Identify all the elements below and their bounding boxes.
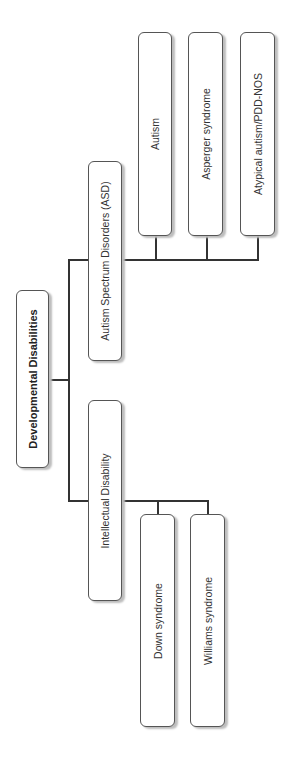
intellectual-disability-label: Intellectual Disability — [99, 453, 111, 548]
asperger-label: Asperger syndrome — [200, 88, 212, 180]
asperger-node: Asperger syndrome — [188, 32, 223, 236]
asd-connector — [68, 259, 89, 261]
asd-children-bus — [121, 259, 259, 261]
williams-connector — [207, 500, 209, 515]
atypical-autism-label: Atypical autism/PDD-NOS — [252, 73, 264, 195]
atypical-autism-node: Atypical autism/PDD-NOS — [240, 32, 275, 236]
autism-node: Autism — [138, 32, 172, 236]
root-connector — [48, 379, 69, 381]
asd-label: Autism Spectrum Disorders (ASD) — [99, 181, 111, 340]
down-syndrome-node: Down syndrome — [140, 514, 175, 727]
id-connector — [68, 500, 89, 502]
asperger-connector — [206, 235, 208, 260]
intellectual-disability-node: Intellectual Disability — [88, 400, 122, 601]
root-node: Developmental Disabilities — [16, 290, 49, 468]
atypical-connector — [257, 235, 259, 260]
asd-node: Autism Spectrum Disorders (ASD) — [88, 161, 122, 361]
autism-connector — [155, 235, 157, 260]
williams-syndrome-label: Williams syndrome — [202, 576, 214, 664]
williams-syndrome-node: Williams syndrome — [190, 514, 225, 727]
id-children-bus — [121, 500, 209, 502]
down-syndrome-label: Down syndrome — [152, 583, 164, 659]
autism-label: Autism — [149, 118, 161, 150]
root-label: Developmental Disabilities — [27, 309, 39, 448]
spine-connector — [68, 259, 70, 501]
down-connector — [157, 500, 159, 515]
